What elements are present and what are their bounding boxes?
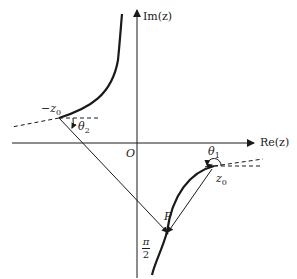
origin-label: O — [126, 148, 135, 159]
fraction-denominator: 2 — [143, 250, 149, 260]
z0-sub: 0 — [222, 178, 227, 187]
neg-z0-name: −z — [41, 102, 56, 115]
real-axis-label: Re(z) — [260, 137, 289, 148]
pi-over-2-label: π 2 — [142, 236, 150, 260]
fraction-numerator: π — [143, 237, 150, 247]
theta2-arc — [72, 118, 73, 128]
P-label: P — [164, 211, 171, 222]
lower-right-curve — [152, 166, 214, 275]
imaginary-axis-label: Im(z) — [143, 11, 172, 22]
fraction: π 2 — [142, 237, 150, 260]
upper-left-curve — [59, 14, 122, 118]
point-P — [166, 232, 169, 235]
theta1-name: θ — [208, 145, 215, 158]
theta2-name: θ — [78, 120, 85, 133]
line-neg-z0-to-P — [59, 118, 167, 232]
theta1-label: θ1 — [208, 146, 220, 160]
theta1-sub: 1 — [215, 151, 220, 160]
theta2-label: θ2 — [78, 121, 90, 135]
neg-z0-label: −z0 — [41, 103, 61, 117]
theta2-sub: 2 — [85, 126, 90, 135]
neg-z0-sub: 0 — [56, 108, 61, 117]
dashed-line-left — [12, 118, 59, 127]
z0-label: z0 — [216, 173, 227, 187]
complex-plane-diagram: Im(z) Re(z) O −z0 θ2 θ1 z0 P π 2 — [0, 0, 297, 279]
